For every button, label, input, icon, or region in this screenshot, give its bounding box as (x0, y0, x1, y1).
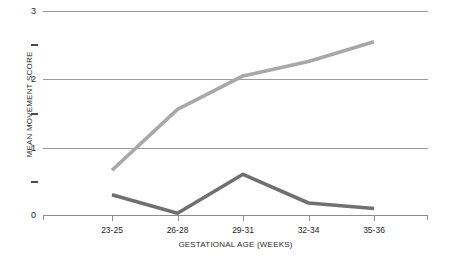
x-tick-label-26-28: 26-28 (167, 226, 189, 235)
x-tick-label-32-34: 32-34 (298, 226, 320, 235)
x-tick-26-28 (178, 216, 179, 221)
y-tick-label-2: 2 (31, 75, 36, 84)
y-tick-label-3: 3 (31, 7, 36, 16)
plot-area: 0123 23-2526-2829-3132-3435-36 (43, 11, 428, 216)
x-tick-29-31 (243, 216, 244, 221)
y-minor-tick-0-5 (31, 181, 38, 183)
y-tick-label-1: 1 (31, 143, 36, 152)
x-tick-32-34 (309, 216, 310, 221)
x-tick-23-25 (112, 216, 113, 221)
x-tick-label-35-36: 35-36 (363, 226, 385, 235)
x-axis-title: GESTATIONAL AGE (WEEKS) (43, 240, 428, 249)
x-tick-label-23-25: 23-25 (101, 226, 123, 235)
x-tick-label-29-31: 29-31 (232, 226, 254, 235)
y-tick-label-0: 0 (31, 211, 36, 220)
y-minor-tick-1-5 (31, 113, 38, 115)
y-minor-tick-2-5 (31, 44, 38, 46)
x-axis-end-tick (427, 216, 428, 220)
x-axis-start-tick (43, 216, 44, 220)
series-layer (43, 11, 428, 216)
series-line-dark-gray-series (112, 174, 374, 213)
x-tick-35-36 (374, 216, 375, 221)
line-chart: MEAN MOVEMENT SCORE 0123 23-2526-2829-31… (0, 0, 450, 258)
series-line-light-gray-series (112, 42, 374, 170)
